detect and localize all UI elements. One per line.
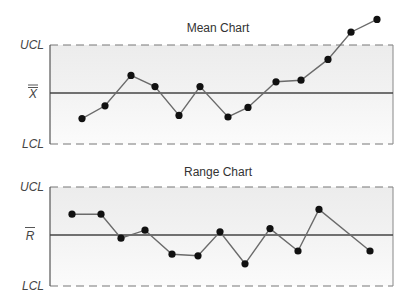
mean-lcl-label: LCL — [22, 137, 44, 151]
data-point — [347, 29, 354, 36]
range-ucl-label: UCL — [20, 180, 44, 194]
range-chart-title: Range Chart — [184, 165, 253, 179]
data-point — [216, 228, 223, 235]
range-lower-band — [50, 235, 393, 286]
data-point — [315, 206, 322, 213]
data-point — [97, 211, 104, 218]
data-point — [117, 235, 124, 242]
svg-text:X: X — [28, 87, 38, 101]
data-point — [175, 112, 182, 119]
data-point — [241, 260, 248, 267]
data-point — [78, 115, 85, 122]
data-point — [266, 225, 273, 232]
chart-canvas: Mean Chart UCL LCL X Range Chart — [0, 0, 416, 304]
data-point — [297, 77, 304, 84]
data-point — [196, 83, 203, 90]
mean-chart: Mean Chart UCL LCL X — [20, 16, 393, 151]
data-point — [272, 78, 279, 85]
data-point — [244, 104, 251, 111]
mean-upper-band — [50, 45, 393, 93]
control-charts: Mean Chart UCL LCL X Range Chart — [0, 0, 416, 304]
data-point — [101, 102, 108, 109]
range-chart: Range Chart UCL LCL R — [20, 165, 393, 293]
data-point — [294, 247, 301, 254]
range-lcl-label: LCL — [22, 279, 44, 293]
data-point — [151, 83, 158, 90]
mean-lower-band — [50, 93, 393, 144]
range-center-label: R — [25, 228, 35, 244]
data-point — [127, 72, 134, 79]
mean-chart-title: Mean Chart — [187, 21, 250, 35]
data-point — [373, 16, 380, 23]
data-point — [224, 113, 231, 120]
mean-center-label: X — [28, 85, 38, 101]
data-point — [194, 252, 201, 259]
data-point — [68, 211, 75, 218]
data-point — [141, 227, 148, 234]
data-point — [324, 56, 331, 63]
svg-text:R: R — [26, 229, 35, 243]
data-point — [168, 251, 175, 258]
data-point — [366, 247, 373, 254]
mean-ucl-label: UCL — [20, 38, 44, 52]
